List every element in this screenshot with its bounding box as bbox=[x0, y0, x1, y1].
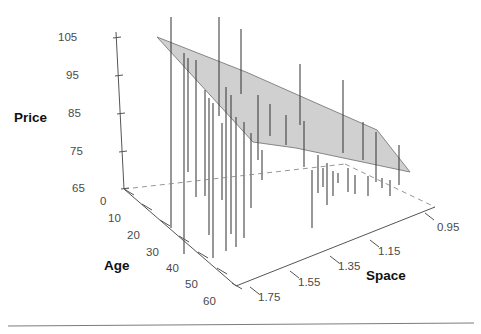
axis-tick-label: 20 bbox=[127, 229, 140, 241]
axis-tick-label: 0.95 bbox=[437, 221, 459, 233]
axis-tick bbox=[119, 151, 127, 152]
price-axis-line bbox=[116, 32, 124, 189]
axis-tick-label: 1.75 bbox=[258, 291, 280, 303]
axis-tick-label: 50 bbox=[185, 278, 198, 290]
axis-tick-label: 60 bbox=[203, 295, 216, 307]
plot-figure: 10595857565 Price 0102030405060 Age 1.75… bbox=[0, 0, 481, 334]
axis-tick bbox=[117, 113, 125, 114]
axis-tick-label: 0 bbox=[100, 195, 106, 207]
axis-tick bbox=[115, 75, 123, 76]
axis-tick-label: 1.15 bbox=[378, 245, 400, 257]
age-axis-title: Age bbox=[104, 258, 130, 273]
axis-tick-label: 95 bbox=[66, 69, 79, 81]
price-axis-title: Price bbox=[14, 110, 48, 125]
space-axis-title: Space bbox=[366, 268, 406, 283]
axis-tick-label: 105 bbox=[58, 31, 77, 43]
price-axis-ticks: 10595857565 bbox=[58, 31, 129, 194]
regression-plane bbox=[157, 37, 410, 172]
axis-tick-label: 10 bbox=[108, 212, 121, 224]
back-edge bbox=[345, 164, 435, 207]
space-axis-ticks: 1.751.551.351.150.95 bbox=[250, 213, 459, 303]
axis-tick-label: 1.55 bbox=[298, 276, 320, 288]
axis-tick bbox=[425, 213, 434, 220]
axis-tick bbox=[113, 37, 121, 38]
axis-tick-label: 75 bbox=[70, 145, 83, 157]
axis-tick-label: 30 bbox=[146, 246, 159, 258]
footer-divider bbox=[8, 323, 474, 326]
axis-tick bbox=[124, 189, 134, 195]
age-axis-line bbox=[124, 189, 236, 286]
axis-tick-label: 85 bbox=[68, 107, 81, 119]
axis-tick-label: 1.35 bbox=[338, 260, 360, 272]
scatter3d-plot: 10595857565 Price 0102030405060 Age 1.75… bbox=[0, 0, 481, 334]
axis-tick-label: 40 bbox=[166, 262, 179, 274]
axis-tick-label: 65 bbox=[72, 182, 85, 194]
